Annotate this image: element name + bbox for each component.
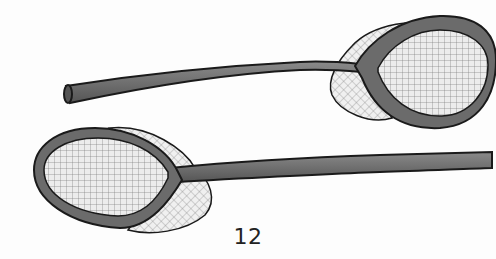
top-racquet	[64, 16, 496, 128]
top-handle-end	[64, 85, 72, 103]
page-number: 12	[0, 224, 496, 249]
bottom-handle	[170, 152, 492, 182]
bottom-racquet	[34, 128, 492, 233]
top-handle	[66, 62, 362, 103]
racquet-illustration	[0, 0, 496, 259]
